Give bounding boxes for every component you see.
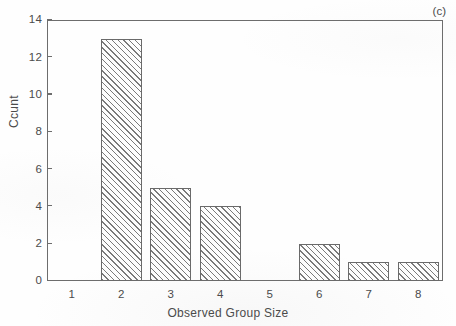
y-tick-mark-6: 6 [47,168,52,169]
bar-2 [101,39,142,281]
y-tick-label-10: 10 [29,88,42,100]
y-tick-mark-2: 2 [47,243,52,244]
y-tick-label-8: 8 [35,125,42,137]
bar-8 [398,262,439,281]
x-tick-label-5: 5 [267,288,273,300]
bar-3 [150,188,191,281]
y-tick-label-4: 4 [35,200,42,212]
x-tick-label-1: 1 [69,288,75,300]
y-tick-mark-14: 14 [47,19,52,20]
y-tick-label-0: 0 [35,274,42,286]
plot-area: 02468101214 12345678 [47,20,443,281]
figure-panel: 02468101214 12345678 Ccunt Observed Grou… [0,0,456,326]
y-tick-mark-0: 0 [47,280,52,281]
bar-6 [299,244,340,281]
y-tick-label-2: 2 [35,237,42,249]
panel-label: (c) [433,5,446,17]
x-tick-label-6: 6 [316,288,322,300]
y-tick-label-12: 12 [29,51,42,63]
y-tick-mark-10: 10 [47,93,52,94]
x-tick-label-2: 2 [118,288,124,300]
y-tick-label-14: 14 [29,13,42,25]
y-axis-title: Ccunt [7,95,21,128]
y-tick-mark-4: 4 [47,205,52,206]
y-tick-mark-8: 8 [47,131,52,132]
x-axis-title: Observed Group Size [0,306,456,320]
x-tick-label-7: 7 [366,288,372,300]
y-tick-label-6: 6 [35,163,42,175]
y-tick-mark-12: 12 [47,56,52,57]
x-tick-label-8: 8 [415,288,421,300]
bar-4 [200,206,241,281]
x-tick-label-4: 4 [217,288,223,300]
bar-7 [348,262,389,281]
x-tick-label-3: 3 [168,288,174,300]
